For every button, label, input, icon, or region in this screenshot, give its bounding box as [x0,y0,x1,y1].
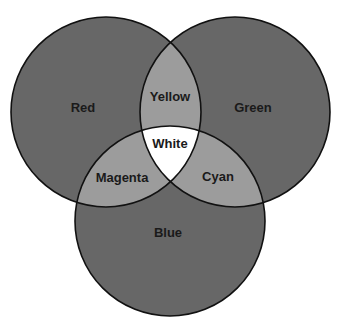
label-magenta: Magenta [96,170,150,185]
label-red: Red [71,100,96,115]
label-cyan: Cyan [202,169,234,184]
label-white: White [152,136,187,151]
label-green: Green [234,100,272,115]
venn-diagram: Red Green Yellow White Magenta Cyan Blue [0,0,341,324]
label-yellow: Yellow [150,89,191,104]
label-blue: Blue [154,225,182,240]
